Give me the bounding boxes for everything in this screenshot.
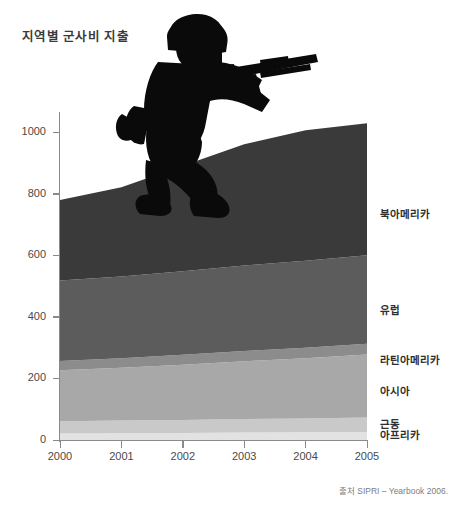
y-tick-label: 400: [12, 310, 46, 322]
y-tick: 1000: [12, 125, 46, 139]
y-tick: 400: [12, 310, 46, 324]
y-axis-line: [59, 112, 60, 442]
series-label-2: 아시아: [380, 383, 410, 398]
x-tick-label: 2005: [345, 450, 389, 462]
x-tick-label: 2000: [38, 450, 82, 462]
y-tick-label: 1000: [12, 125, 46, 137]
y-tick-label: 200: [12, 371, 46, 383]
y-tick-mark: [53, 255, 60, 256]
x-tick-label: 2002: [161, 450, 205, 462]
soldier-silhouette-icon: [110, 10, 325, 225]
x-tick-mark: [121, 441, 122, 448]
y-tick-label: 600: [12, 248, 46, 260]
x-tick-mark: [182, 441, 183, 448]
y-tick: 800: [12, 187, 46, 201]
x-tick-label: 2001: [99, 450, 143, 462]
y-tick: 600: [12, 248, 46, 262]
x-tick-mark: [244, 441, 245, 448]
y-tick-label: 800: [12, 187, 46, 199]
x-axis-line: [59, 440, 368, 441]
y-tick: 0: [12, 433, 46, 447]
series-label-3: 라틴아메리카: [380, 352, 440, 367]
y-tick-mark: [53, 193, 60, 194]
x-tick-mark: [367, 441, 368, 448]
chart-root: 지역별 군사비 지출: [0, 0, 458, 510]
x-tick-mark: [305, 441, 306, 448]
y-tick-label: 0: [12, 433, 46, 445]
series-label-4: 유럽: [380, 302, 400, 317]
series-label-5: 북아메리카: [380, 206, 430, 221]
y-tick-mark: [53, 132, 60, 133]
x-tick-mark: [60, 441, 61, 448]
series-label-1: 근동: [380, 416, 400, 431]
y-tick-mark: [53, 378, 60, 379]
y-tick: 200: [12, 371, 46, 385]
x-tick-label: 2004: [284, 450, 328, 462]
y-tick-mark: [53, 316, 60, 317]
source-note: 출처 SIPRI – Yearbook 2006.: [339, 484, 448, 496]
x-tick-label: 2003: [222, 450, 266, 462]
